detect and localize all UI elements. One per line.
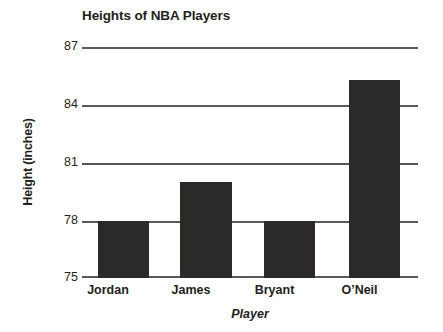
y-tick-label-87: 87 xyxy=(48,39,78,53)
x-axis-title: Player xyxy=(82,307,418,321)
bar-chart-figure: Heights of NBA Players Height (inches) 8… xyxy=(0,0,443,332)
category-label-jordan: Jordan xyxy=(68,283,148,297)
chart-title: Heights of NBA Players xyxy=(82,8,230,23)
category-label-bryant: Bryant xyxy=(234,283,315,297)
y-tick-label-84: 84 xyxy=(48,97,78,111)
gridline-87 xyxy=(82,47,418,49)
category-label-oneil: O’Neil xyxy=(319,283,400,297)
y-tick-label-78: 78 xyxy=(48,213,78,227)
y-axis-title: Height (inches) xyxy=(21,92,35,232)
y-tick-label-75: 75 xyxy=(48,270,78,284)
bar-jordan xyxy=(98,221,149,278)
bar-bryant xyxy=(264,221,315,278)
category-label-james: James xyxy=(150,283,232,297)
bar-oneil xyxy=(349,80,400,278)
bar-james xyxy=(180,182,232,278)
y-tick-label-81: 81 xyxy=(48,155,78,169)
plot-area xyxy=(82,47,418,278)
